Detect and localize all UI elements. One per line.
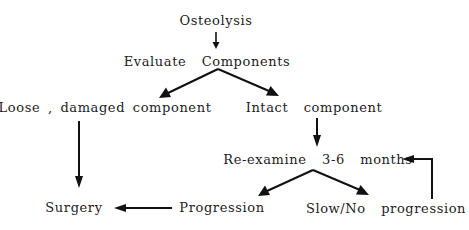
node-progression: Progression	[179, 200, 264, 215]
edge-line	[168, 69, 218, 93]
edge-line	[412, 159, 432, 199]
edge-line	[267, 170, 313, 191]
edge-evaluate-to-loose	[159, 69, 218, 98]
node-osteolysis: Osteolysis	[179, 13, 252, 28]
node-surgery: Surgery	[45, 200, 102, 215]
node-slow-no-progression: Slow/No progression	[306, 201, 466, 216]
arrow-head-icon	[313, 135, 321, 147]
flowchart-diagram: Osteolysis Evaluate Components Loose , d…	[0, 0, 469, 230]
edge-intact-to-reexamine	[313, 118, 321, 147]
edge-osteolysis-to-evaluate	[213, 32, 220, 49]
node-reexamine-3-6-months: Re-examine 3-6 months	[223, 152, 412, 167]
arrow-head-icon	[114, 204, 126, 212]
node-loose-damaged-component: Loose , damaged component	[0, 100, 212, 115]
edge-line	[218, 69, 269, 91]
edge-reexamine-to-slow	[313, 170, 369, 195]
edge-loose-to-surgery	[75, 121, 83, 188]
node-intact-component: Intact component	[246, 100, 383, 115]
arrow-head-icon	[75, 176, 83, 188]
edge-progression-to-surgery	[114, 204, 172, 212]
edge-reexamine-to-progression	[258, 170, 313, 196]
arrow-head-icon	[213, 42, 220, 49]
edge-line	[313, 170, 360, 190]
edge-evaluate-to-intact	[218, 69, 279, 96]
node-evaluate-components: Evaluate Components	[124, 54, 291, 69]
